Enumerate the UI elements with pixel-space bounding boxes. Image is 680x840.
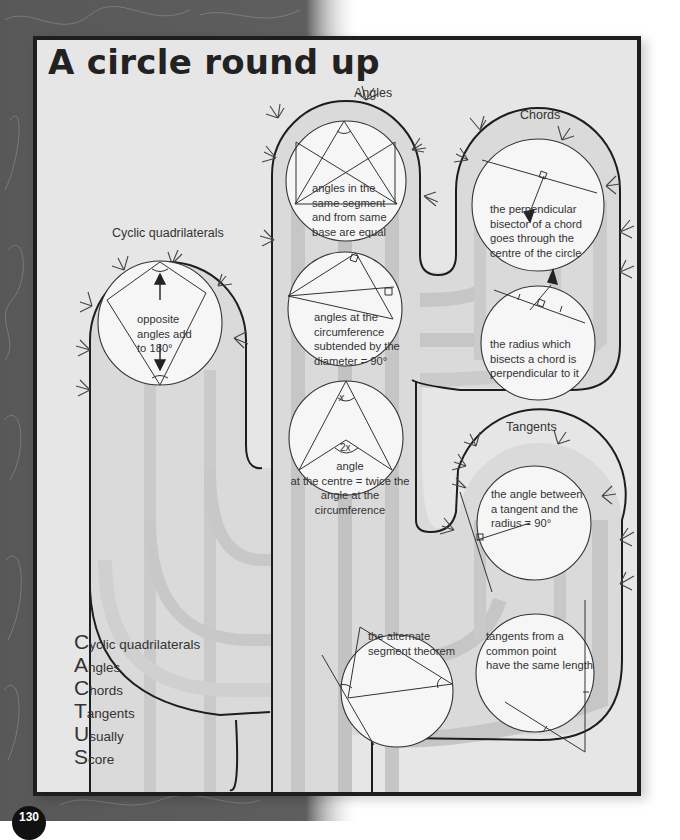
angle-mark-2x: 2x [340, 441, 351, 456]
fact-line: bisector of a chord [490, 217, 582, 232]
mnemonic-row: Tangents [74, 701, 200, 724]
mnemonic-row: Score [74, 747, 200, 770]
mnemonic-word: hords [89, 683, 123, 698]
fact-perp-bisector: the perpendicular bisector of a chord go… [490, 202, 582, 260]
fact-line: angles add [137, 327, 192, 342]
page-number-badge: 130 [12, 806, 46, 840]
fact-line: opposite [137, 312, 192, 327]
mnemonic-word: core [88, 752, 114, 767]
fact-tangent-radius: the angle between a tangent and the radi… [491, 487, 582, 531]
fact-alternate-segment: the alternate segment theorem [368, 629, 455, 658]
fact-line: bisects a chord is [490, 352, 579, 367]
section-label-chords: Chords [520, 108, 560, 122]
mnemonic-word: angents [87, 706, 135, 721]
mnemonic-row: Usually [74, 724, 200, 747]
fact-line: angle [290, 459, 410, 474]
fact-line: a tangent and the [491, 502, 582, 517]
fact-diameter: angles at the circumference subtended by… [314, 310, 400, 368]
mnemonic-initial: C [74, 676, 89, 699]
fact-line: angles in the [312, 181, 387, 196]
fact-line: and from same [312, 210, 387, 225]
fact-line: to 180° [137, 341, 192, 356]
mnemonic-initial: C [74, 630, 89, 653]
fact-line: common point [486, 644, 593, 659]
fact-line: the perpendicular [490, 202, 582, 217]
fact-tangents-common-point: tangents from a common point have the sa… [486, 629, 593, 673]
fact-line: the angle between [491, 487, 582, 502]
mnemonic-word: sually [89, 729, 124, 744]
fact-same-segment: angles in the same segment and from same… [312, 181, 387, 239]
fact-line: angle at the circumference [290, 488, 410, 517]
angle-mark-x: x [339, 391, 344, 406]
fact-line: the alternate [368, 629, 455, 644]
fact-line: the radius which [490, 337, 579, 352]
fact-line: radius = 90° [491, 516, 582, 531]
mnemonic-initial: S [74, 745, 88, 768]
fact-cyclic-quad: opposite angles add to 180° [137, 312, 192, 356]
fact-line: subtended by the [314, 339, 400, 354]
mnemonic-initial: A [74, 653, 88, 676]
fact-line: angles at the [314, 310, 400, 325]
fact-line: diameter = 90° [314, 354, 400, 369]
mnemonic-row: Chords [74, 678, 200, 701]
fact-centre-angle: angle at the centre = twice the angle at… [290, 459, 410, 517]
cactus-mnemonic: Cyclic quadrilaterals Angles Chords Tang… [74, 632, 200, 770]
mnemonic-word: yclic quadrilaterals [89, 637, 200, 652]
fact-line: base are equal [312, 225, 387, 240]
fact-line: at the centre = twice the [290, 474, 410, 489]
mnemonic-row: Cyclic quadrilaterals [74, 632, 200, 655]
mnemonic-initial: T [74, 699, 87, 722]
fact-line: same segment [312, 196, 387, 211]
fact-line: have the same length [486, 658, 593, 673]
fact-line: tangents from a [486, 629, 593, 644]
mnemonic-word: ngles [88, 660, 120, 675]
section-label-angles: Angles [354, 86, 392, 100]
fact-line: circumference [314, 325, 400, 340]
fact-line: perpendicular to it [490, 366, 579, 381]
mnemonic-row: Angles [74, 655, 200, 678]
section-label-tangents: Tangents [506, 420, 557, 434]
fact-line: centre of the circle [490, 246, 582, 261]
fact-radius-bisects: the radius which bisects a chord is perp… [490, 337, 579, 381]
fact-line: goes through the [490, 231, 582, 246]
section-label-cyclic: Cyclic quadrilaterals [112, 226, 224, 240]
fact-line: segment theorem [368, 644, 455, 659]
mnemonic-initial: U [74, 722, 89, 745]
